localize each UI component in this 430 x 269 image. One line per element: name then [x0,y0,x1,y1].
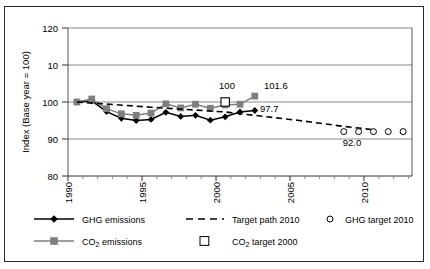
legend-label-co2-target: CO2 target 2000 [232,237,297,249]
x-tick-label-1990: 1990 [63,182,74,203]
legend-co2-target-pre: CO [232,237,246,247]
legend-item-co2-emissions[interactable]: CO2 emissions [34,237,142,249]
diamond-marker [192,112,199,119]
x-tick-label-1995: 1995 [137,182,148,203]
legend-label-ghg-emissions: GHG emissions [82,215,146,225]
gridlines [68,28,412,139]
y-tick-label-100: 100 [42,97,58,108]
square-marker [192,101,199,108]
square-marker [103,105,110,112]
diamond-marker [177,113,184,120]
open-circle-marker [385,129,391,135]
y-tick-label-90: 90 [47,134,58,145]
open-square-icon [200,237,209,246]
y-tick-label-110: 10 [47,60,58,71]
diamond-marker [162,109,169,116]
open-circle-marker [356,129,362,135]
square-marker [148,110,155,117]
square-marker [237,101,244,108]
diamond-marker [251,107,258,114]
y-axis-ticks [62,28,68,176]
legend-label-co2-emissions: CO2 emissions [82,237,142,249]
x-tick-label-2005: 2005 [285,182,296,203]
chart-container: 120 10 100 90 80 Index (Base year = 100)… [0,0,430,269]
open-circle-marker [341,129,347,135]
annotation-ghg-end-value: 97.7 [260,103,279,114]
legend-label-ghg-target: GHG target 2010 [345,215,414,225]
chart-legend: GHG emissions Target path 2010 GHG targe… [34,215,414,249]
diamond-icon [50,215,58,223]
legend-label-target-path: Target path 2010 [232,215,300,225]
annotation-co2-end-value: 101.6 [264,80,288,91]
square-marker [88,96,95,103]
y-tick-label-120: 120 [42,23,58,34]
legend-item-ghg-emissions[interactable]: GHG emissions [34,215,146,225]
square-icon [50,237,58,245]
y-tick-label-80: 80 [47,171,58,182]
x-tick-label-2010: 2010 [359,182,370,203]
square-marker [133,112,140,119]
series-co2-target-2000 [221,98,229,106]
series-ghg-target-2010 [341,129,406,135]
square-marker [162,100,169,107]
legend-item-co2-target[interactable]: CO2 target 2000 [200,237,297,249]
open-square-marker [221,98,229,106]
open-circle-marker [400,129,406,135]
x-axis-ticks [68,176,408,181]
chart-svg: 120 10 100 90 80 Index (Base year = 100)… [0,0,430,269]
annotation-ghg-target-value: 92.0 [343,137,362,148]
x-tick-label-2000: 2000 [211,182,222,203]
square-marker [118,110,125,117]
square-marker [251,93,258,100]
legend-item-target-path[interactable]: Target path 2010 [186,215,300,225]
legend-co2-emissions-pre: CO [82,237,96,247]
y-axis-title: Index (Base year = 100) [20,51,31,153]
annotation-co2-target-2000: 100 [219,80,235,91]
open-circle-marker [370,129,376,135]
diamond-marker [148,116,155,123]
legend-co2-target-post: target 2000 [249,237,297,247]
legend-item-ghg-target[interactable]: GHG target 2010 [327,215,414,225]
legend-co2-emissions-post: emissions [99,237,142,247]
data-series-layer [73,93,406,135]
square-marker [177,105,184,112]
diamond-marker [207,117,214,124]
diamond-marker [222,113,229,120]
open-circle-icon [327,216,333,222]
